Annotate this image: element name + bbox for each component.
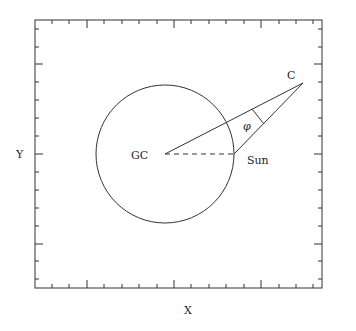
label-angle-phi: φ (243, 120, 251, 133)
sun-cloud-line (234, 83, 303, 154)
x-axis-ticks-bottom (52, 280, 313, 288)
y-axis-label: Y (15, 148, 24, 161)
gc-cloud-line (165, 83, 303, 154)
y-axis-ticks-right (314, 29, 322, 279)
x-axis-label: X (184, 304, 192, 317)
angle-marker (252, 109, 264, 124)
x-axis-ticks-top (52, 20, 313, 28)
y-axis-ticks-left (35, 29, 43, 279)
label-gc: GC (131, 149, 148, 162)
label-sun: Sun (247, 154, 269, 167)
label-cloud: C (287, 69, 295, 82)
diagram-canvas: GC Sun C φ Y X (0, 0, 356, 331)
